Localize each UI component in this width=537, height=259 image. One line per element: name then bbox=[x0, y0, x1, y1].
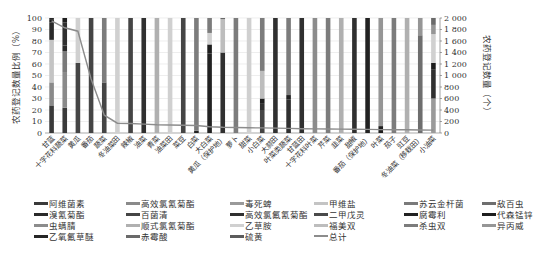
bar-stack bbox=[365, 18, 370, 133]
left-tick-label: 50 bbox=[32, 71, 42, 80]
bar-stack bbox=[234, 18, 239, 133]
legend-item: 敌百虫 bbox=[482, 198, 537, 208]
bar-segment bbox=[431, 18, 436, 25]
legend-swatch-icon bbox=[482, 202, 496, 205]
legend-swatch-icon bbox=[314, 202, 328, 205]
legend-item: 代森锰锌 bbox=[482, 209, 537, 219]
bar-segment bbox=[62, 23, 67, 46]
bar-segment bbox=[62, 72, 67, 108]
bar-stack bbox=[418, 18, 423, 133]
bar-segment bbox=[141, 18, 146, 133]
legend-item: 高效氯氰菊酯 bbox=[126, 198, 230, 208]
legend-label: 异丙威 bbox=[497, 219, 524, 231]
bar-segment bbox=[273, 18, 278, 133]
left-tick-label: 0 bbox=[37, 129, 42, 138]
legend-item: 虫螨腈 bbox=[34, 220, 126, 230]
bar-segment bbox=[299, 18, 304, 133]
bar-stack bbox=[299, 18, 304, 133]
bar-segment bbox=[286, 95, 291, 100]
left-tick-label: 60 bbox=[32, 60, 42, 69]
bar-segment bbox=[128, 18, 133, 133]
left-tick-label: 10 bbox=[32, 117, 42, 126]
bar-segment bbox=[313, 18, 318, 133]
left-tick-label: 100 bbox=[27, 14, 42, 23]
bar-segment bbox=[431, 34, 436, 63]
bar-stack bbox=[62, 18, 67, 133]
bar-segment bbox=[207, 44, 212, 53]
left-y-axis: 0102030405060708090100 bbox=[27, 14, 42, 138]
left-tick-label: 40 bbox=[32, 83, 42, 92]
legend-item: 阿维菌素 bbox=[34, 198, 126, 208]
legend-swatch-icon bbox=[230, 224, 244, 227]
right-y-axis-title: 农药登记数量（个） bbox=[482, 35, 492, 116]
bar-segment bbox=[418, 18, 423, 35]
legend-item: 二甲戊灵 bbox=[314, 209, 404, 219]
bar-segment bbox=[220, 18, 225, 19]
bar-segment bbox=[49, 18, 54, 19]
legend-swatch-icon bbox=[34, 235, 48, 238]
legend-item: 顺式氯氰菊酯 bbox=[126, 220, 230, 230]
legend-swatch-icon bbox=[126, 235, 140, 238]
legend-item: 毒死蜱 bbox=[230, 198, 314, 208]
bar-segment bbox=[326, 18, 331, 133]
bar-stack bbox=[339, 18, 344, 133]
bar-segment bbox=[260, 103, 265, 110]
bar-stack bbox=[352, 18, 357, 133]
x-axis-labels: 甘蓝十字花科蔬菜黄瓜番茄蔬菜冬油菜田辣椒油菜青菜油菜田菜豆白菜大白菜黄瓜（保护地… bbox=[33, 134, 438, 180]
right-tick-label: 1 800 bbox=[444, 25, 467, 34]
legend-swatch-icon bbox=[34, 213, 48, 216]
legend-swatch-icon bbox=[34, 224, 48, 227]
bar-segment bbox=[76, 63, 81, 133]
bar-segment bbox=[365, 18, 370, 133]
bar-segment bbox=[207, 54, 212, 133]
bar-segment bbox=[431, 99, 436, 134]
right-tick-label: 0 bbox=[444, 129, 449, 138]
left-tick-label: 90 bbox=[32, 25, 42, 34]
legend-swatch-icon bbox=[126, 213, 140, 216]
bar-stack bbox=[326, 18, 331, 133]
legend-label: 乙氧氟草醚 bbox=[49, 230, 94, 242]
bar-segment bbox=[286, 18, 291, 95]
bar-segment bbox=[260, 110, 265, 133]
legend-swatch-icon bbox=[126, 202, 140, 205]
legend-swatch-icon bbox=[404, 202, 418, 205]
bar-segment bbox=[62, 46, 67, 52]
right-tick-label: 1 200 bbox=[444, 60, 467, 69]
legend-swatch-icon bbox=[482, 213, 496, 216]
bar-segment bbox=[431, 25, 436, 34]
bar-segment bbox=[194, 18, 199, 131]
legend-swatch-icon bbox=[404, 224, 418, 227]
left-tick-label: 70 bbox=[32, 48, 42, 57]
right-tick-label: 800 bbox=[444, 83, 459, 92]
legend-item: 乙氧氟草醚 bbox=[34, 231, 126, 241]
legend-label: 硫黄 bbox=[245, 230, 263, 242]
bar-segment bbox=[220, 19, 225, 52]
bar-stack bbox=[49, 18, 54, 133]
bar-segment bbox=[62, 51, 67, 72]
bar-stack bbox=[128, 18, 133, 133]
bar-stack bbox=[260, 18, 265, 133]
bar-segment bbox=[260, 18, 265, 71]
bar-segment bbox=[378, 18, 383, 126]
legend-label: 赤霉酸 bbox=[141, 230, 168, 242]
legend-swatch-icon bbox=[314, 213, 328, 216]
bar-segment bbox=[168, 18, 173, 133]
legend-item: 百菌清 bbox=[126, 209, 230, 219]
bar-stack bbox=[273, 18, 278, 133]
legend-item: 福美双 bbox=[314, 220, 404, 230]
bar-stack bbox=[181, 18, 186, 133]
bar-segment bbox=[405, 18, 410, 133]
bar-segment bbox=[62, 18, 67, 23]
bar-segment bbox=[115, 18, 120, 133]
bar-stack bbox=[115, 18, 120, 133]
right-tick-label: 200 bbox=[444, 117, 459, 126]
bar-segment bbox=[49, 82, 54, 105]
bar-segment bbox=[62, 108, 67, 133]
bar-segment bbox=[194, 131, 199, 133]
left-tick-label: 30 bbox=[32, 94, 42, 103]
bar-segment bbox=[392, 18, 397, 133]
legend-item: 高效氯氟氰菊酯 bbox=[230, 209, 314, 219]
legend-item: 总计 bbox=[314, 231, 404, 241]
bar-segment bbox=[207, 18, 212, 33]
legend-item: 腐霉利 bbox=[404, 209, 482, 219]
